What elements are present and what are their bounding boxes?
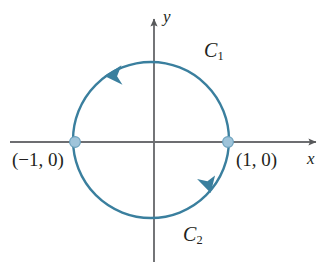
unit-circle-curve <box>73 62 229 218</box>
figure-graphics <box>0 0 329 270</box>
curve-label-c1: C1 <box>204 40 224 62</box>
point-label-positive-one: (1, 0) <box>236 150 277 169</box>
point-marker-positive-one <box>223 137 234 148</box>
point-marker-negative-one <box>70 137 81 148</box>
curve-label-c1-subscript: 1 <box>217 49 223 63</box>
point-label-negative-one: (−1, 0) <box>12 150 64 169</box>
curve-label-c1-base: C <box>204 39 217 61</box>
curve-label-c2: C2 <box>183 224 203 246</box>
curve-label-c2-base: C <box>183 223 196 245</box>
figure-canvas: y x (−1, 0) (1, 0) C1 C2 <box>0 0 329 270</box>
x-axis-label: x <box>307 150 315 167</box>
y-axis-label: y <box>163 8 171 25</box>
curve-label-c2-subscript: 2 <box>196 233 202 247</box>
c2-direction-arrowhead <box>196 174 215 194</box>
